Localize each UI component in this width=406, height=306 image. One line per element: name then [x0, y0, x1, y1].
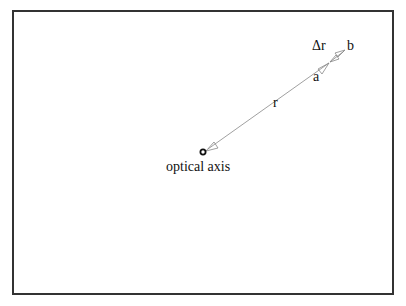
label-a: a — [313, 69, 319, 85]
optical-axis-point-icon — [200, 149, 205, 154]
label-b: b — [347, 38, 354, 54]
label-optical-axis: optical axis — [166, 159, 230, 175]
label-delta-r: Δr — [312, 38, 326, 54]
label-r: r — [273, 95, 278, 111]
vector-diagram — [0, 0, 406, 306]
r-vector-line — [208, 63, 329, 149]
